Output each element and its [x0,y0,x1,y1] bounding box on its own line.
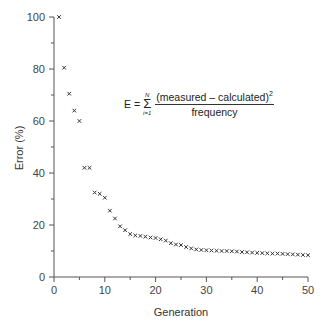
x-marker-icon [230,249,234,253]
x-marker-icon [93,191,97,195]
x-marker-icon [281,252,285,256]
x-marker-icon [149,236,153,240]
numerator-text: (measured – calculated) [156,91,269,103]
x-marker-icon [174,243,178,247]
x-marker-icon [179,243,183,247]
summation: N Σ i=1 [143,92,151,116]
x-marker-icon [235,250,239,254]
x-marker-icon [184,245,188,249]
x-marker-icon [128,232,132,236]
x-marker-icon [169,241,173,245]
x-marker-icon [73,109,77,113]
x-marker-icon [240,250,244,254]
data-points [57,15,310,257]
x-tick-label: 40 [251,284,263,296]
x-marker-icon [301,253,305,257]
exponent: 2 [269,90,273,97]
x-tick-label: 0 [51,284,57,296]
scatter-chart: 02040608010001020304050 Generation Error… [0,0,326,324]
x-marker-icon [113,217,117,221]
x-marker-icon [108,209,112,213]
x-marker-icon [139,234,143,238]
fraction: (measured – calculated)2 frequency [155,90,274,118]
x-tick-label: 10 [99,284,111,296]
y-tick-label: 40 [33,167,45,179]
y-tick-label: 20 [33,219,45,231]
denominator: frequency [191,105,237,118]
x-marker-icon [266,252,270,256]
numerator: (measured – calculated)2 [155,90,274,105]
x-marker-icon [215,249,219,253]
y-tick-label: 80 [33,63,45,75]
x-marker-icon [78,119,82,123]
x-marker-icon [62,66,66,70]
x-marker-icon [245,251,249,255]
x-marker-icon [98,192,102,196]
x-marker-icon [306,253,310,257]
x-marker-icon [194,248,198,252]
x-marker-icon [286,252,290,256]
x-marker-icon [144,235,148,239]
x-marker-icon [291,253,295,257]
x-marker-icon [276,252,280,256]
y-tick-label: 0 [39,271,45,283]
x-marker-icon [88,166,92,170]
x-marker-icon [118,225,122,229]
sum-lower-limit: i=1 [143,110,151,116]
x-marker-icon [159,238,163,242]
x-marker-icon [189,247,193,251]
sigma-icon: Σ [143,98,151,110]
x-marker-icon [103,196,107,200]
x-marker-icon [296,253,300,257]
y-tick-label: 60 [33,115,45,127]
error-formula-annotation: E = N Σ i=1 (measured – calculated)2 fre… [124,90,274,118]
y-axis-label: Error (%) [13,126,25,171]
x-tick-label: 20 [149,284,161,296]
x-marker-icon [83,166,87,170]
x-marker-icon [271,252,275,256]
x-axis-label: Generation [154,306,208,318]
x-marker-icon [200,248,204,252]
formula-lhs: E = [124,98,140,110]
x-marker-icon [220,249,224,253]
x-marker-icon [154,236,158,240]
x-marker-icon [210,249,214,253]
x-tick-label: 50 [302,284,314,296]
x-marker-icon [67,92,71,96]
x-marker-icon [250,251,254,255]
x-marker-icon [255,251,259,255]
x-marker-icon [133,234,137,238]
x-marker-icon [57,15,61,19]
x-marker-icon [123,228,127,232]
x-tick-label: 30 [200,284,212,296]
x-marker-icon [205,248,209,252]
x-marker-icon [225,249,229,253]
axes: 02040608010001020304050 [27,11,314,296]
x-marker-icon [164,239,168,243]
y-tick-label: 100 [27,11,45,23]
x-marker-icon [260,251,264,255]
